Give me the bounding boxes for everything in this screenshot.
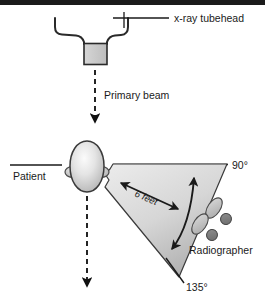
radiation-protection-diagram: x-ray tubehead Primary beam Patient 6 fe… xyxy=(0,0,265,304)
radiographer-label: Radiographer xyxy=(189,244,253,256)
top-border-rule xyxy=(0,0,265,5)
angle-135-label: 135° xyxy=(186,281,208,293)
scatter-wedge xyxy=(105,164,227,277)
collimator-box xyxy=(84,44,107,65)
tubehead-leader-line xyxy=(113,12,169,28)
angle-90-label: 90° xyxy=(232,159,248,171)
patient-head xyxy=(65,141,109,192)
tubehead-yoke xyxy=(55,18,128,44)
tubehead-label: x-ray tubehead xyxy=(174,12,244,24)
diagram-canvas: x-ray tubehead Primary beam Patient 6 fe… xyxy=(0,0,265,304)
patient-label: Patient xyxy=(13,170,46,182)
primary-beam-label: Primary beam xyxy=(104,89,170,101)
head-outline xyxy=(70,141,104,192)
